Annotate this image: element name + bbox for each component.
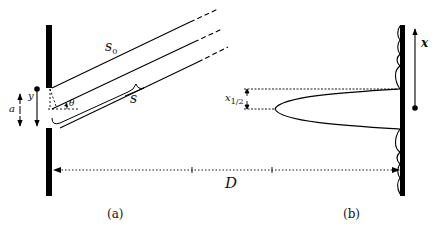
diagram-canvas — [0, 0, 435, 233]
label-x-half: x1/2 — [225, 93, 244, 106]
label-y: y — [28, 91, 34, 101]
barrier-bottom — [46, 128, 52, 196]
rays — [52, 9, 228, 128]
label-D: D — [225, 176, 237, 191]
y-coordinate-arrow — [34, 86, 40, 126]
screen — [400, 25, 405, 196]
label-a: a — [9, 104, 15, 114]
label-s: s — [130, 91, 137, 105]
label-x: x — [421, 37, 428, 49]
barrier-top — [46, 25, 52, 88]
caption-b: (b) — [343, 208, 360, 220]
intensity-profile — [275, 26, 400, 194]
diagram-figure: s0 s θ y a x1/2 x D (a) (b) — [0, 0, 435, 233]
ray-s0 — [52, 22, 190, 88]
x-coordinate-arrow — [412, 29, 418, 111]
ray-s0-dashed — [190, 9, 218, 22]
slit-barrier — [46, 25, 52, 196]
caption-a: (a) — [107, 208, 124, 220]
x-half-markers — [244, 89, 398, 109]
label-s0: s0 — [105, 39, 117, 56]
label-theta: θ — [69, 99, 74, 108]
distance-D-line — [53, 167, 400, 173]
